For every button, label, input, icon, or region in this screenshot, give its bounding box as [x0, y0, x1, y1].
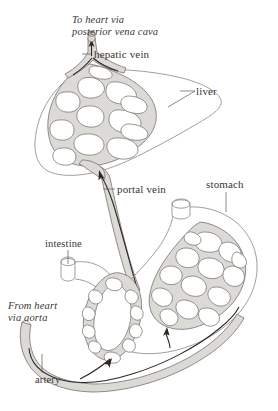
label-intestine: intestine — [45, 238, 82, 251]
label-artery: artery — [35, 374, 60, 387]
label-portal-vein: portal vein — [117, 183, 166, 196]
leader-liver — [168, 91, 195, 107]
label-hepatic-vein: hepatic vein — [94, 48, 149, 61]
hepatic-portal-system-diagram: .organ { fill: none; stroke: #8a8580; st… — [0, 0, 278, 411]
label-to-heart-via-vena-cava: To heart via posterior vena cava — [72, 14, 158, 38]
figure-canvas: .organ { fill: none; stroke: #8a8580; st… — [0, 0, 278, 411]
label-from-heart-line2: via aorta — [8, 312, 57, 324]
intestine-capillary-network — [82, 273, 143, 363]
label-liver: liver — [196, 85, 217, 98]
liver-capillary-network — [48, 64, 156, 166]
label-from-heart-via-aorta: From heart via aorta — [8, 300, 57, 324]
label-to-heart-line1: To heart via — [72, 14, 158, 26]
portal-vein-vessel — [79, 160, 140, 293]
label-to-heart-line2: posterior vena cava — [72, 26, 158, 38]
label-stomach: stomach — [206, 178, 244, 191]
stomach-capillary-network — [149, 222, 246, 329]
label-from-heart-line1: From heart — [8, 300, 57, 312]
